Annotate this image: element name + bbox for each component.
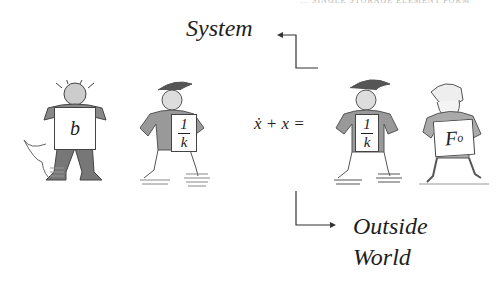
arrowhead-right-icon — [330, 222, 336, 228]
placard-f-subscript: o — [457, 130, 464, 145]
fraction-numerator: 1 — [180, 117, 188, 132]
placard-one-over-k-left: 1 k — [171, 114, 197, 152]
system-arrow-line — [281, 35, 318, 68]
equation-lhs: ẋ + x = — [254, 114, 305, 134]
placard-one-over-k-right: 1 k — [355, 114, 379, 152]
fraction-denominator: k — [181, 135, 188, 150]
placard-b-label: b — [70, 117, 80, 140]
fraction-numerator: 1 — [363, 117, 371, 132]
fraction-denominator: k — [364, 135, 371, 150]
fraction: 1 k — [178, 117, 190, 150]
placard-b: b — [54, 107, 96, 150]
arrowhead-left-icon — [277, 32, 283, 38]
fraction: 1 k — [361, 117, 373, 150]
outside-arrow-line — [296, 191, 331, 225]
placard-f-o: Fo — [433, 119, 475, 158]
diagram-canvas: ... SINGLE STORAGE ELEMENT FORM System O… — [0, 0, 499, 283]
